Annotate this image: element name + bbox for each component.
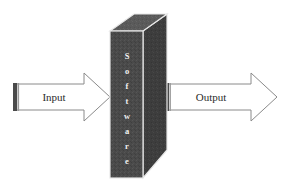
output-arrow-label: Output	[196, 91, 227, 103]
software-box-side-face	[143, 14, 167, 178]
box-letter-5: w	[124, 111, 131, 121]
input-arrow-tail-inner-bar	[18, 83, 20, 111]
box-letter-8: e	[125, 156, 129, 166]
input-arrow-tail-bar	[13, 83, 17, 111]
box-letter-4: t	[126, 96, 129, 106]
software-box: S o f t w a r e	[110, 14, 167, 178]
box-letter-2: o	[125, 66, 129, 76]
output-arrow-tail-inner-bar	[170, 83, 171, 111]
diagram-canvas: Input Output S o f t w a r	[0, 0, 281, 194]
box-letter-3: f	[126, 81, 129, 91]
box-letter-1: S	[125, 51, 130, 61]
box-letter-7: r	[125, 141, 129, 151]
input-arrow-label: Input	[42, 91, 65, 103]
software-io-diagram: Input Output S o f t w a r	[0, 0, 281, 194]
